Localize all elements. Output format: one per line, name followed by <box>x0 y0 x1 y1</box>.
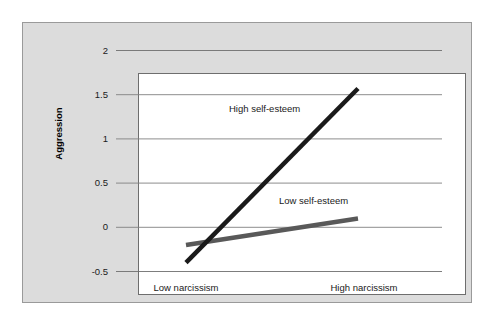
ytick-label-neg0p5: -0.5 <box>62 267 108 277</box>
chart-figure: 2 1.5 1 0.5 0 -0.5 Aggression Low narcis… <box>0 0 495 324</box>
xtick-label-high-narcissism: High narcissism <box>300 283 428 293</box>
y-axis-title: Aggression <box>53 89 64 179</box>
chart-panel <box>22 22 472 303</box>
ytick-label-0p5: 0.5 <box>62 178 108 188</box>
ytick-label-2: 2 <box>62 46 108 56</box>
series-label-low-self-esteem: Low self-esteem <box>279 196 348 206</box>
ytick-label-0: 0 <box>62 222 108 232</box>
ytick-label-1: 1 <box>62 134 108 144</box>
series-label-high-self-esteem: High self-esteem <box>229 104 300 114</box>
plot-area <box>138 73 466 295</box>
ytick-label-1p5: 1.5 <box>62 90 108 100</box>
xtick-label-low-narcissism: Low narcissism <box>122 283 250 293</box>
